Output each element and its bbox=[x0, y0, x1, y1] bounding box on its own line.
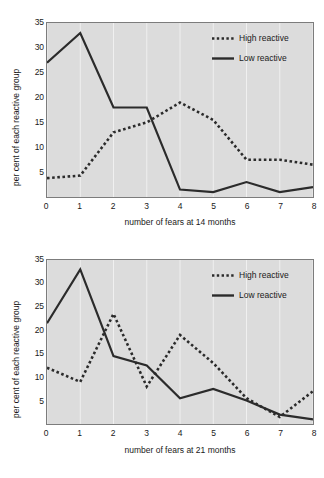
y-tick-label: 5 bbox=[4, 397, 44, 406]
x-tick-label: 8 bbox=[305, 429, 323, 438]
x-tick-label: 3 bbox=[138, 429, 156, 438]
y-tick-label: 5 bbox=[4, 168, 44, 177]
chart-fears-14-months: 5101520253035 per cent of each reactive … bbox=[0, 0, 324, 240]
legend-label-high-reactive: High reactive bbox=[239, 271, 289, 280]
x-tick-label: 5 bbox=[205, 429, 223, 438]
x-tick-label: 0 bbox=[37, 429, 55, 438]
legend-label-low-reactive: Low reactive bbox=[239, 291, 287, 300]
legend-label-high-reactive: High reactive bbox=[239, 34, 289, 43]
y-tick-label: 10 bbox=[4, 143, 44, 152]
x-tick-label: 1 bbox=[71, 202, 89, 211]
x-tick-label: 2 bbox=[104, 429, 122, 438]
y-tick-label: 10 bbox=[4, 373, 44, 382]
x-tick-label: 4 bbox=[171, 202, 189, 211]
y-tick-label: 30 bbox=[4, 278, 44, 287]
x-axis-label-chart-1: number of fears at 14 months bbox=[46, 217, 314, 227]
figure-two-line-charts: 5101520253035 per cent of each reactive … bbox=[0, 0, 324, 478]
legend-chart-2: High reactive Low reactive bbox=[212, 271, 289, 311]
y-tick-label: 15 bbox=[4, 349, 44, 358]
x-tick-label: 2 bbox=[104, 202, 122, 211]
x-tick-label: 3 bbox=[138, 202, 156, 211]
x-tick-label: 7 bbox=[272, 429, 290, 438]
x-tick-label: 5 bbox=[205, 202, 223, 211]
solid-line-icon bbox=[212, 291, 234, 300]
y-tick-label: 30 bbox=[4, 43, 44, 52]
y-tick-label: 15 bbox=[4, 118, 44, 127]
legend-item-low-reactive: Low reactive bbox=[212, 291, 289, 300]
y-tick-label: 35 bbox=[4, 255, 44, 264]
y-tick-label: 25 bbox=[4, 302, 44, 311]
y-axis-label-chart-2: per cent of each reactive group bbox=[12, 301, 21, 418]
x-tick-label: 6 bbox=[238, 202, 256, 211]
y-axis-label-chart-1: per cent of each reactive group bbox=[12, 69, 21, 186]
chart-fears-21-months: 5101520253035 per cent of each reactive … bbox=[0, 240, 324, 478]
x-tick-label: 1 bbox=[71, 429, 89, 438]
dotted-line-icon bbox=[212, 271, 234, 280]
legend-item-low-reactive: Low reactive bbox=[212, 54, 289, 63]
x-tick-label: 8 bbox=[305, 202, 323, 211]
legend-item-high-reactive: High reactive bbox=[212, 34, 289, 43]
x-tick-label: 7 bbox=[272, 202, 290, 211]
x-tick-label: 0 bbox=[37, 202, 55, 211]
y-axis-ticks-chart-2: 5101520253035 bbox=[0, 240, 44, 478]
dotted-line-icon bbox=[212, 34, 234, 43]
solid-line-icon bbox=[212, 54, 234, 63]
y-tick-label: 20 bbox=[4, 93, 44, 102]
y-tick-label: 20 bbox=[4, 326, 44, 335]
y-tick-label: 25 bbox=[4, 68, 44, 77]
legend-item-high-reactive: High reactive bbox=[212, 271, 289, 280]
y-tick-label: 35 bbox=[4, 18, 44, 27]
legend-chart-1: High reactive Low reactive bbox=[212, 34, 289, 74]
legend-label-low-reactive: Low reactive bbox=[239, 54, 287, 63]
x-tick-label: 6 bbox=[238, 429, 256, 438]
x-tick-label: 4 bbox=[171, 429, 189, 438]
x-axis-label-chart-2: number of fears at 21 months bbox=[46, 445, 314, 455]
